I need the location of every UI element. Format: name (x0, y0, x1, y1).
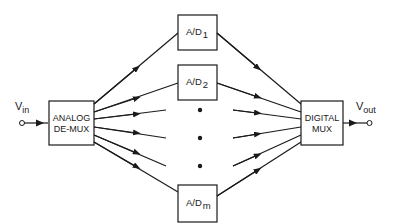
output-node-icon (367, 121, 372, 126)
input-label: Vin (15, 100, 29, 115)
input-terminal: Vin (15, 100, 48, 127)
analog-demux-block: ANALOG DE-MUX (49, 101, 94, 145)
input-arrow-icon (36, 120, 44, 127)
ellipsis-dots (198, 108, 202, 168)
digital-mux-block: DIGITAL MUX (301, 101, 343, 145)
output-label: Vout (356, 100, 376, 115)
demux-label-line2: DE-MUX (54, 124, 90, 134)
ellipsis-dot-icon (198, 108, 202, 112)
output-arrow-icon (349, 120, 357, 127)
mux-label-line2: MUX (312, 124, 332, 134)
demux-label-line1: ANALOG (53, 113, 91, 123)
demux-fanout-lines (94, 33, 178, 192)
input-node-icon (20, 121, 25, 126)
ad-converter-m: A/Dm (178, 185, 217, 222)
ad-converter-1: A/D1 (178, 15, 217, 50)
diagram-canvas: Vin ANALOG DE-MUX A/D1 A/D2 (0, 0, 394, 224)
ellipsis-dot-icon (198, 164, 202, 168)
output-terminal: Vout (343, 100, 376, 127)
ad-converter-2: A/D2 (178, 65, 217, 100)
mux-label-line1: DIGITAL (305, 113, 339, 123)
ellipsis-dot-icon (198, 136, 202, 140)
mux-fanin-lines (217, 33, 301, 196)
